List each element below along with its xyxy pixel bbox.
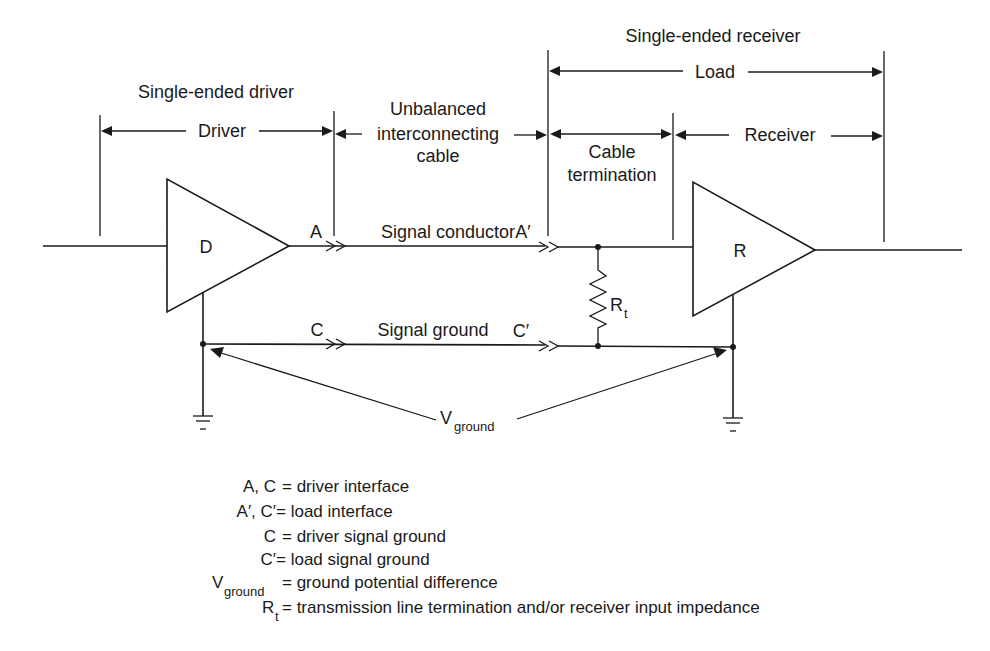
receiver-group-header: Single-ended receiver [625, 26, 800, 46]
termination-span: Cable termination [550, 129, 672, 185]
arrowhead [549, 66, 560, 76]
signal-ground-line [203, 344, 545, 345]
receiver-span: Receiver [675, 125, 883, 145]
connector-a-prime-mark1 [539, 242, 548, 252]
arrowhead [536, 130, 547, 140]
cable-span-label-line1: Unbalanced [390, 99, 486, 119]
termination-label-line2: termination [567, 165, 656, 185]
receiver-ground-junction [730, 344, 736, 350]
vground-arrows: V ground [210, 347, 727, 434]
legend-definition: = driver interface [282, 477, 409, 496]
arrowhead [872, 131, 883, 141]
signal-conductor-label: Signal conductor [381, 222, 515, 242]
connector-a-prime-mark2 [549, 242, 558, 252]
legend-item: V ground = ground potential difference [212, 573, 498, 599]
receiver-symbol-label: R [734, 241, 747, 261]
legend-definition: = ground potential difference [282, 573, 498, 592]
legend-definition: = transmission line termination and/or r… [282, 598, 760, 617]
cable-span: Unbalanced interconnecting cable [335, 99, 547, 166]
receiver-amplifier: R [693, 182, 815, 316]
driver-span-label: Driver [198, 121, 246, 141]
receiver-earth-ground-icon [723, 418, 743, 431]
legend-term: C′ [261, 550, 276, 569]
receiver-span-label: Receiver [744, 125, 815, 145]
legend-item: A, C = driver interface [243, 477, 409, 496]
signal-ground-label: Signal ground [377, 320, 488, 340]
driver-span: Driver [101, 121, 333, 141]
legend: A, C = driver interface A′, C′ = load in… [212, 477, 760, 624]
node-c-prime-label: C′ [513, 321, 530, 341]
termination-resistor: R t [590, 244, 628, 349]
legend-term: R [262, 598, 274, 617]
arrowhead [335, 129, 346, 139]
connector-c-prime-mark2 [549, 341, 558, 351]
driver-earth-ground-icon [193, 416, 213, 429]
legend-term: A′, C′ [237, 502, 276, 521]
termination-label-line1: Cable [588, 142, 635, 162]
connector-c-prime-mark1 [539, 341, 548, 351]
arrowhead [101, 126, 112, 136]
node-a-label: A [310, 222, 322, 242]
resistor-label-sub: t [624, 306, 628, 321]
node-a-prime-label: A′ [515, 222, 531, 242]
legend-definition: = driver signal ground [282, 527, 446, 546]
arrowhead [713, 347, 727, 358]
cable-span-label-line2: interconnecting [377, 124, 499, 144]
driver-symbol-label: D [200, 237, 213, 257]
load-span: Load [549, 62, 883, 82]
legend-item: C′ = load signal ground [261, 550, 430, 569]
node-c-label: C [311, 320, 324, 340]
driver-amplifier: D [167, 179, 289, 312]
vground-label-sub: ground [454, 419, 494, 434]
arrowhead [675, 130, 686, 140]
legend-item: C = driver signal ground [264, 527, 446, 546]
legend-term-sub: t [275, 609, 279, 624]
arrowhead [872, 67, 883, 77]
vground-label: V [440, 408, 452, 428]
legend-item: A′, C′ = load interface [237, 502, 393, 521]
single-ended-interface-diagram: Single-ended driver Single-ended receive… [0, 0, 990, 651]
legend-definition: = load interface [276, 502, 393, 521]
load-span-label: Load [695, 62, 735, 82]
legend-item: R t = transmission line termination and/… [262, 598, 760, 624]
legend-definition: = load signal ground [276, 550, 430, 569]
arrowhead [661, 129, 672, 139]
arrowhead [322, 126, 333, 136]
arrowhead [210, 347, 224, 358]
driver-group-header: Single-ended driver [138, 82, 294, 102]
resistor-label: R [610, 295, 623, 315]
load-ground-line [558, 346, 733, 347]
legend-term-sub: ground [224, 584, 264, 599]
cable-span-label-line3: cable [416, 146, 459, 166]
legend-term: V [212, 573, 224, 592]
legend-term: A, C [243, 477, 276, 496]
arrowhead [550, 129, 561, 139]
legend-term: C [264, 527, 276, 546]
resistor-zigzag [590, 247, 606, 346]
